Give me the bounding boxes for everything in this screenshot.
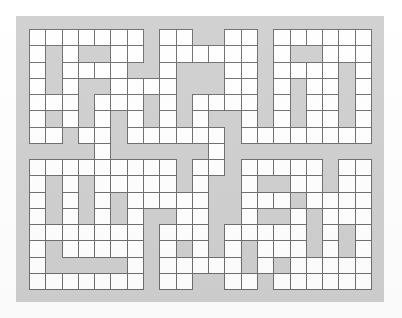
crossword-cell-open[interactable]: [290, 127, 307, 144]
crossword-cell-open[interactable]: [62, 240, 79, 257]
crossword-cell-open[interactable]: [192, 127, 209, 144]
crossword-cell-open[interactable]: [306, 273, 323, 290]
crossword-cell-open[interactable]: [127, 110, 144, 127]
crossword-cell-open[interactable]: [355, 45, 372, 62]
crossword-cell-open[interactable]: [290, 62, 307, 79]
crossword-cell-open[interactable]: [273, 273, 290, 290]
crossword-cell-open[interactable]: [62, 208, 79, 225]
crossword-cell-open[interactable]: [241, 273, 258, 290]
crossword-cell-open[interactable]: [290, 175, 307, 192]
crossword-cell-open[interactable]: [257, 240, 274, 257]
crossword-cell-open[interactable]: [224, 62, 241, 79]
crossword-cell-open[interactable]: [110, 29, 127, 46]
crossword-cell-open[interactable]: [176, 257, 193, 274]
crossword-cell-open[interactable]: [176, 45, 193, 62]
crossword-cell-open[interactable]: [355, 62, 372, 79]
crossword-cell-open[interactable]: [176, 208, 193, 225]
crossword-cell-open[interactable]: [62, 62, 79, 79]
crossword-cell-open[interactable]: [62, 45, 79, 62]
crossword-cell-open[interactable]: [290, 273, 307, 290]
crossword-cell-open[interactable]: [355, 29, 372, 46]
crossword-cell-open[interactable]: [241, 78, 258, 95]
crossword-cell-open[interactable]: [257, 127, 274, 144]
crossword-cell-open[interactable]: [127, 192, 144, 209]
crossword-cell-open[interactable]: [241, 127, 258, 144]
crossword-cell-open[interactable]: [176, 224, 193, 241]
crossword-cell-open[interactable]: [338, 29, 355, 46]
crossword-cell-open[interactable]: [224, 45, 241, 62]
crossword-cell-open[interactable]: [29, 240, 46, 257]
crossword-cell-open[interactable]: [273, 62, 290, 79]
crossword-cell-open[interactable]: [322, 273, 339, 290]
crossword-cell-open[interactable]: [159, 45, 176, 62]
crossword-cell-open[interactable]: [241, 94, 258, 111]
crossword-cell-open[interactable]: [176, 29, 193, 46]
crossword-cell-open[interactable]: [224, 257, 241, 274]
crossword-cell-open[interactable]: [338, 257, 355, 274]
crossword-cell-open[interactable]: [94, 192, 111, 209]
crossword-cell-open[interactable]: [143, 175, 160, 192]
crossword-cell-open[interactable]: [355, 273, 372, 290]
crossword-cell-open[interactable]: [127, 94, 144, 111]
crossword-cell-open[interactable]: [338, 159, 355, 176]
crossword-cell-open[interactable]: [29, 45, 46, 62]
crossword-cell-open[interactable]: [127, 224, 144, 241]
crossword-cell-open[interactable]: [192, 110, 209, 127]
crossword-cell-open[interactable]: [322, 78, 339, 95]
crossword-cell-open[interactable]: [78, 62, 95, 79]
crossword-cell-open[interactable]: [355, 208, 372, 225]
crossword-cell-open[interactable]: [94, 224, 111, 241]
crossword-cell-open[interactable]: [159, 240, 176, 257]
crossword-cell-open[interactable]: [192, 175, 209, 192]
crossword-cell-open[interactable]: [62, 94, 79, 111]
crossword-cell-open[interactable]: [306, 127, 323, 144]
crossword-cell-open[interactable]: [176, 127, 193, 144]
crossword-cell-open[interactable]: [192, 257, 209, 274]
crossword-cell-open[interactable]: [306, 192, 323, 209]
crossword-cell-open[interactable]: [29, 175, 46, 192]
crossword-cell-open[interactable]: [241, 45, 258, 62]
crossword-cell-open[interactable]: [62, 29, 79, 46]
crossword-cell-open[interactable]: [45, 94, 62, 111]
crossword-cell-open[interactable]: [241, 29, 258, 46]
crossword-cell-open[interactable]: [241, 224, 258, 241]
crossword-cell-open[interactable]: [110, 45, 127, 62]
crossword-cell-open[interactable]: [29, 273, 46, 290]
crossword-cell-open[interactable]: [29, 224, 46, 241]
crossword-cell-open[interactable]: [208, 45, 225, 62]
crossword-cell-open[interactable]: [192, 224, 209, 241]
crossword-cell-open[interactable]: [159, 94, 176, 111]
crossword-cell-open[interactable]: [290, 208, 307, 225]
crossword-cell-open[interactable]: [322, 110, 339, 127]
crossword-cell-open[interactable]: [290, 257, 307, 274]
crossword-cell-open[interactable]: [306, 62, 323, 79]
crossword-cell-open[interactable]: [208, 127, 225, 144]
crossword-cell-open[interactable]: [62, 175, 79, 192]
crossword-cell-open[interactable]: [338, 45, 355, 62]
crossword-cell-open[interactable]: [159, 62, 176, 79]
crossword-cell-open[interactable]: [208, 143, 225, 160]
crossword-cell-open[interactable]: [322, 192, 339, 209]
crossword-cell-open[interactable]: [322, 240, 339, 257]
crossword-cell-open[interactable]: [338, 273, 355, 290]
crossword-cell-open[interactable]: [127, 208, 144, 225]
crossword-cell-open[interactable]: [306, 29, 323, 46]
crossword-cell-open[interactable]: [159, 127, 176, 144]
crossword-cell-open[interactable]: [62, 192, 79, 209]
crossword-cell-open[interactable]: [355, 127, 372, 144]
crossword-cell-open[interactable]: [322, 127, 339, 144]
crossword-cell-open[interactable]: [290, 159, 307, 176]
crossword-cell-open[interactable]: [94, 29, 111, 46]
crossword-cell-open[interactable]: [159, 159, 176, 176]
crossword-cell-open[interactable]: [94, 240, 111, 257]
crossword-cell-open[interactable]: [192, 45, 209, 62]
crossword-cell-open[interactable]: [45, 159, 62, 176]
crossword-cell-open[interactable]: [127, 240, 144, 257]
crossword-cell-open[interactable]: [94, 273, 111, 290]
crossword-cell-open[interactable]: [78, 240, 95, 257]
crossword-cell-open[interactable]: [224, 224, 241, 241]
crossword-cell-open[interactable]: [29, 29, 46, 46]
crossword-cell-open[interactable]: [29, 110, 46, 127]
crossword-cell-open[interactable]: [94, 159, 111, 176]
crossword-cell-open[interactable]: [257, 257, 274, 274]
